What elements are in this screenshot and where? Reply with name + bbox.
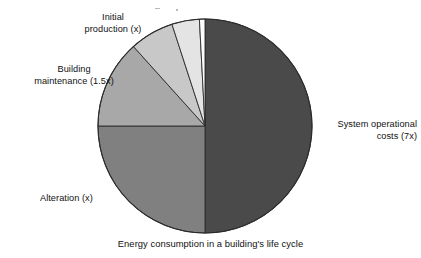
pie-slice	[205, 19, 312, 233]
pie-slice	[98, 126, 205, 233]
scan-artifact-speck	[155, 8, 160, 9]
slice-label-system-operational: System operational costs (7x)	[317, 118, 417, 142]
pie-chart-figure: Initial production (x) Building maintena…	[0, 0, 421, 258]
chart-caption: Energy consumption in a building's life …	[0, 238, 421, 250]
slice-label-alteration: Alteration (x)	[40, 192, 150, 204]
slice-label-building-maintenance: Building maintenance (1.5x)	[8, 63, 140, 87]
slice-label-initial-production: Initial production (x)	[58, 11, 168, 35]
scan-artifact-speck	[176, 9, 178, 11]
